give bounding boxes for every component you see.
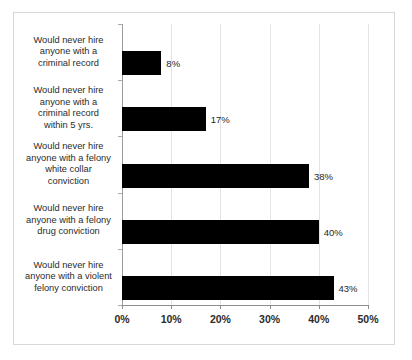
x-tick-0pct [122,305,123,309]
category-label-3: Would never hireanyone with a felonydrug… [17,203,120,238]
bar-value-label-2: 38% [309,170,333,181]
category-label-line: criminal record [17,58,120,70]
category-label-4: Would never hireanyone with a violentfel… [17,260,120,295]
category-label-line: anyone with a [17,46,120,58]
bar-4[interactable] [122,276,334,300]
x-tick-30pct [270,305,271,309]
category-label-line: Would never hire [17,203,120,215]
bar-value-label-4: 43% [334,282,358,293]
x-tick-20pct [220,305,221,309]
category-label-line: anyone with a felony [17,153,120,165]
x-axis-label-30pct: 30% [245,313,295,325]
y-tick-1 [118,80,122,81]
category-label-2: Would never hireanyone with a felonywhit… [17,141,120,187]
chart-frame: 8%17%38%40%43% 0%10%20%30%40%50%Would ne… [13,12,395,345]
bar-1[interactable] [122,107,206,131]
bar-2[interactable] [122,164,309,188]
x-axis-label-10pct: 10% [146,313,196,325]
category-label-line: Would never hire [17,260,120,272]
bar-value-label-0: 8% [161,58,180,69]
category-label-line: white collar [17,164,120,176]
y-tick-5 [118,305,122,306]
bar-3[interactable] [122,220,319,244]
x-tick-40pct [319,305,320,309]
bar-row: 17% [122,107,368,131]
bar-row: 8% [122,51,368,75]
x-axis-line [122,305,369,306]
bar-0[interactable] [122,51,161,75]
y-tick-0 [118,24,122,25]
x-axis-label-20pct: 20% [195,313,245,325]
category-label-1: Would never hireanyone with acriminal re… [17,85,120,131]
gridline-50pct [368,24,369,305]
category-label-line: Would never hire [17,85,120,97]
category-label-line: anyone with a felony [17,215,120,227]
category-label-line: criminal record [17,108,120,120]
y-tick-3 [118,193,122,194]
bar-row: 43% [122,276,368,300]
category-label-line: within 5 yrs. [17,120,120,132]
x-tick-50pct [368,305,369,309]
y-tick-4 [118,249,122,250]
x-tick-10pct [171,305,172,309]
x-axis-label-50pct: 50% [343,313,393,325]
bar-row: 38% [122,164,368,188]
bar-row: 40% [122,220,368,244]
category-label-line: drug conviction [17,226,120,238]
category-label-0: Would never hireanyone with acriminal re… [17,35,120,70]
y-tick-2 [118,136,122,137]
x-axis-label-0pct: 0% [97,313,147,325]
plot-area: 8%17%38%40%43% [122,24,368,305]
category-label-line: Would never hire [17,35,120,47]
category-label-line: felony conviction [17,283,120,295]
bar-value-label-1: 17% [206,114,230,125]
category-label-line: conviction [17,176,120,188]
category-label-line: anyone with a [17,97,120,109]
x-axis-label-40pct: 40% [294,313,344,325]
category-label-line: Would never hire [17,141,120,153]
category-label-line: anyone with a violent [17,271,120,283]
bar-value-label-3: 40% [319,226,343,237]
